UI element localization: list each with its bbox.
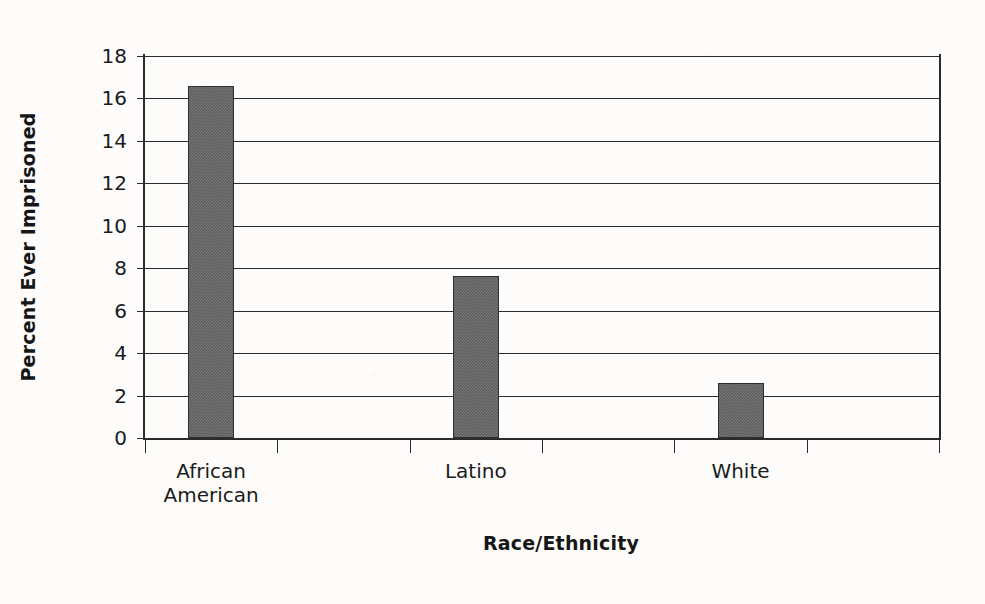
y-axis-tick-label: 12 (102, 173, 127, 193)
x-axis-category-label: White (711, 460, 769, 484)
gridline (145, 141, 939, 142)
y-axis-tick (137, 226, 153, 227)
gridline (145, 98, 939, 99)
y-axis-tick (137, 311, 153, 312)
y-axis-title: Percent Ever Imprisoned (17, 112, 39, 381)
y-axis-tick (137, 183, 153, 184)
x-axis-category-label: African American (164, 460, 259, 507)
x-axis-category-label: Latino (445, 460, 507, 484)
x-axis-tick (807, 438, 808, 453)
y-axis-tick-label: 10 (102, 216, 127, 236)
bar (188, 86, 234, 438)
y-axis-tick (137, 396, 153, 397)
y-axis-tick (137, 98, 153, 99)
gridline (145, 268, 939, 269)
y-axis-tick-label: 14 (102, 131, 127, 151)
y-axis-tick-label: 6 (114, 301, 127, 321)
x-axis-tick (939, 438, 940, 453)
gridline (145, 353, 939, 354)
chart-figure: Percent Ever Imprisoned 024681012141618 … (0, 0, 985, 604)
y-axis-tick-label: 0 (114, 428, 127, 448)
y-axis-tick-label: 4 (114, 343, 127, 363)
gridline (145, 226, 939, 227)
x-axis-tick (277, 438, 278, 453)
x-axis-tick (542, 438, 543, 453)
x-axis-tick (145, 438, 146, 453)
y-axis-tick-label: 8 (114, 258, 127, 278)
y-axis-tick (137, 353, 153, 354)
gridline (145, 183, 939, 184)
bar (453, 276, 499, 438)
y-axis-tick (137, 268, 153, 269)
plot-area: 024681012141618 (145, 56, 939, 438)
x-axis-title: Race/Ethnicity (483, 532, 639, 554)
x-axis-tick (410, 438, 411, 453)
gridline (145, 56, 939, 57)
y-axis-tick-label: 18 (102, 46, 127, 66)
y-axis-tick (137, 141, 153, 142)
y-axis-tick-label: 16 (102, 88, 127, 108)
gridline (145, 311, 939, 312)
x-axis-tick (674, 438, 675, 453)
bar (718, 383, 764, 438)
gridline (145, 396, 939, 397)
y-axis-line (143, 54, 145, 440)
plot-right-border (939, 54, 941, 440)
y-axis-tick (137, 56, 153, 57)
y-axis-tick-label: 2 (114, 386, 127, 406)
